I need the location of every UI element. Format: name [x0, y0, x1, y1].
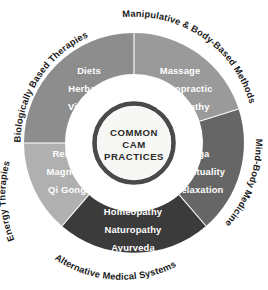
wedge-item: Chiropractic: [155, 83, 212, 94]
wedge-item: Yoga: [187, 148, 210, 159]
wedge-item: Magnets: [46, 166, 85, 177]
cam-practices-diagram: COMMON CAM PRACTICES Diets Herbals Vitam…: [0, 0, 268, 290]
wedge-item: Herbals: [68, 83, 103, 94]
wedge-item: Massage: [160, 65, 201, 76]
outer-label-alternative-medical-systems: Alternative Medical Systems: [53, 252, 177, 282]
wedge-item: Qi Gong: [48, 184, 86, 195]
wedge-item: Homeopathy: [104, 206, 163, 217]
wedge-item: Osteopathy: [156, 101, 210, 112]
wedge-item: Spirituality: [175, 166, 226, 177]
wheel-svg: COMMON CAM PRACTICES Diets Herbals Vitam…: [0, 0, 268, 290]
hub-line-3: PRACTICES: [104, 151, 164, 162]
wedge-items-energy-therapies: Reiki Magnets Qi Gong: [46, 148, 86, 195]
hub-line-2: CAM: [122, 139, 145, 150]
wedge-item: Ayurveda: [111, 242, 155, 253]
wedge-item: Naturopathy: [105, 224, 162, 235]
wedge-item: Diets: [77, 65, 101, 76]
wedge-item: Vitamins: [68, 101, 108, 112]
wedge-item: Relaxation: [175, 184, 224, 195]
outer-label-energy-therapies: Energy Therapies: [0, 160, 16, 243]
hub-line-1: COMMON: [110, 127, 158, 138]
wedge-items-alternative-medical-systems: Homeopathy Naturopathy Ayurveda: [104, 206, 163, 253]
wedge-item: Reiki: [52, 148, 75, 159]
